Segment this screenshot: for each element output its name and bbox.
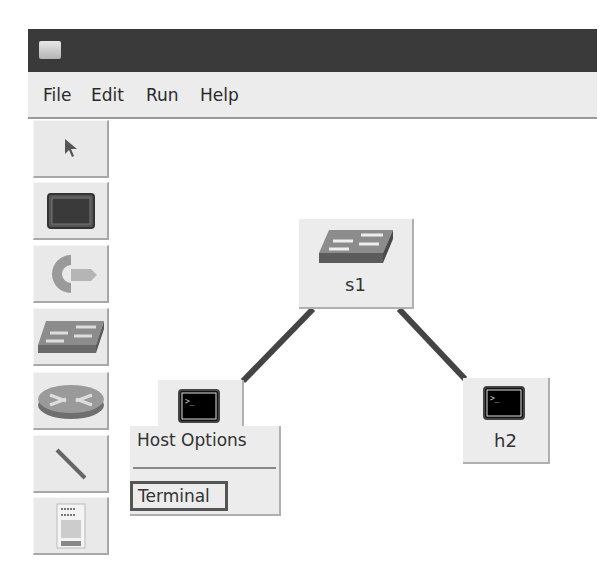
menu-help[interactable]: Help <box>200 85 239 105</box>
menu-edit[interactable]: Edit <box>91 85 124 105</box>
menu-file[interactable]: File <box>43 85 71 105</box>
menu-run[interactable]: Run <box>146 85 179 105</box>
context-menu-title: Host Options <box>137 430 247 450</box>
node-label: h2 <box>463 430 548 451</box>
terminal-host-icon: >_ <box>483 386 525 420</box>
menu-item-terminal[interactable]: Terminal <box>130 481 228 511</box>
svg-text:>_: >_ <box>185 397 195 406</box>
node-h2[interactable]: >_ h2 <box>463 378 550 464</box>
node-label: s1 <box>299 274 412 295</box>
switch-icon <box>317 227 395 267</box>
app-icon <box>39 41 61 59</box>
link-s1-h2[interactable] <box>399 309 465 379</box>
topology-canvas[interactable]: s1 >_ >_ h2 <box>28 119 597 585</box>
svg-text:>_: >_ <box>490 394 500 403</box>
context-menu-separator <box>133 467 276 469</box>
node-s1[interactable]: s1 <box>299 219 414 309</box>
host-context-menu: Host Options Terminal <box>130 426 281 516</box>
title-bar[interactable] <box>28 29 597 72</box>
menu-bar: File Edit Run Help <box>28 72 597 119</box>
terminal-host-icon: >_ <box>178 389 220 423</box>
link-s1-h1[interactable] <box>243 309 313 381</box>
miniedit-window: File Edit Run Help <box>28 29 597 585</box>
links-layer <box>28 119 597 585</box>
